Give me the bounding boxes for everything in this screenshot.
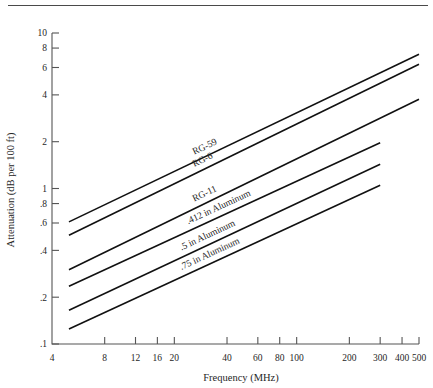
y-tick-label: .2 bbox=[40, 293, 47, 303]
y-tick-label: 4 bbox=[42, 90, 47, 100]
y-tick-label: .4 bbox=[40, 246, 47, 256]
curve-412-in-aluminum bbox=[69, 143, 380, 287]
figure-page: .1.2.4.6.81246810 8121620406080100200300… bbox=[0, 0, 433, 388]
x-tick-label: 8 bbox=[102, 353, 107, 363]
attenuation-chart: .1.2.4.6.81246810 8121620406080100200300… bbox=[0, 0, 433, 388]
curve-RG-11 bbox=[69, 99, 419, 270]
y-tick-label: .1 bbox=[40, 339, 47, 349]
curve-labels: RG-59RG-6RG-11.412 in Aluminum.5 in Alum… bbox=[178, 136, 252, 271]
x-tick-label: 400 bbox=[395, 353, 410, 363]
x-tick-label: 12 bbox=[131, 353, 141, 363]
x-axis-title: Frequency (MHz) bbox=[203, 372, 279, 384]
x-tick-labels: 81216204060801002003004005004 bbox=[50, 353, 427, 363]
x-tick-label: 200 bbox=[342, 353, 357, 363]
x-origin-label: 4 bbox=[50, 353, 55, 363]
x-tick-label: 500 bbox=[412, 353, 427, 363]
y-tick-label: 8 bbox=[42, 43, 47, 53]
y-tick-label: 2 bbox=[42, 137, 47, 147]
y-tick-label: 1 bbox=[42, 184, 47, 194]
y-tick-label: 6 bbox=[42, 63, 47, 73]
curve-5-in-aluminum bbox=[69, 164, 380, 310]
x-tick-label: 16 bbox=[153, 353, 163, 363]
x-tick-label: 100 bbox=[290, 353, 305, 363]
y-axis-title: Attenuation (dB per 100 ft) bbox=[5, 132, 17, 247]
y-tick-label: 10 bbox=[38, 28, 48, 38]
x-tick-label: 300 bbox=[373, 353, 388, 363]
y-tick-label: .6 bbox=[40, 218, 47, 228]
x-tick-label: 80 bbox=[275, 353, 285, 363]
y-tick-labels: .1.2.4.6.81246810 bbox=[38, 28, 48, 349]
y-tick-label: .8 bbox=[40, 199, 47, 209]
curve-label-RG-11: RG-11 bbox=[191, 183, 219, 203]
x-tick-label: 20 bbox=[170, 353, 180, 363]
chart-svg: .1.2.4.6.81246810 8121620406080100200300… bbox=[0, 0, 433, 388]
x-tick-label: 60 bbox=[253, 353, 263, 363]
x-tick-label: 40 bbox=[222, 353, 232, 363]
